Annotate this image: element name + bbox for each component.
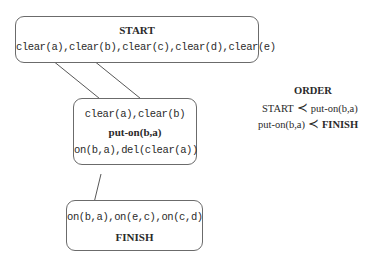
action-node: clear(a),clear(b) put-on(b,a) on(b,a),de… xyxy=(73,98,197,165)
start-title: START xyxy=(16,24,258,36)
constraint-after: FINISH xyxy=(322,119,358,130)
constraint-after: put-on(b,a) xyxy=(311,103,358,114)
finish-node: on(b,a),on(e,c),on(c,d) FINISH xyxy=(66,200,203,251)
order-constraint: START≺put-on(b,a) xyxy=(262,100,358,116)
precedes-icon: ≺ xyxy=(308,116,319,131)
action-preconditions: clear(a),clear(b) xyxy=(74,108,196,120)
action-effects: on(b,a),del(clear(a)) xyxy=(74,144,196,156)
start-node: START clear(a),clear(b),clear(c),clear(d… xyxy=(15,16,259,63)
constraint-before: START xyxy=(262,103,294,114)
start-effects: clear(a),clear(b),clear(c),clear(d),clea… xyxy=(16,41,258,53)
precedes-icon: ≺ xyxy=(297,100,308,115)
finish-preconditions: on(b,a),on(e,c),on(c,d) xyxy=(67,211,202,223)
action-name: put-on(b,a) xyxy=(74,126,196,138)
order-constraint: put-on(b,a)≺FINISH xyxy=(258,116,358,132)
constraint-before: put-on(b,a) xyxy=(258,119,305,130)
order-title: ORDER xyxy=(294,85,332,96)
finish-title: FINISH xyxy=(67,231,202,243)
